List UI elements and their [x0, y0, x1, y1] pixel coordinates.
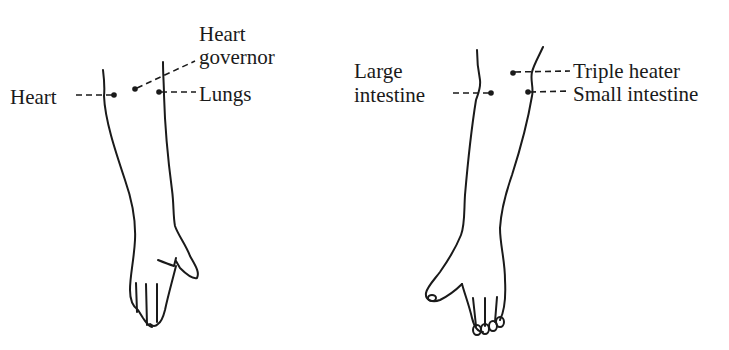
right-arm-points [453, 70, 570, 96]
lungs-point [156, 89, 162, 95]
label-heart: Heart [10, 86, 57, 108]
small-intestine-point [525, 89, 531, 95]
meridian-diagram [0, 0, 729, 350]
label-triple-heater: Triple heater [573, 60, 680, 82]
large-intestine-point [488, 90, 494, 96]
label-large-intestine-line2: intestine [354, 84, 425, 106]
left-hand-fingers [136, 283, 157, 325]
label-large-intestine-line1: Large [354, 60, 403, 82]
left-hand-thumb [158, 258, 176, 266]
right-arm-drawing [426, 47, 543, 335]
left-arm-outer-contour [103, 70, 152, 327]
label-lungs: Lungs [199, 83, 252, 105]
small-intestine-leader [530, 91, 570, 92]
right-arm-inner-contour [500, 47, 543, 320]
label-small-intestine: Small intestine [573, 83, 698, 105]
heart-governor-point [132, 86, 138, 92]
heart-point [111, 92, 117, 98]
label-heart-governor-line2: governor [199, 46, 275, 68]
left-hand-palm [150, 266, 176, 326]
left-arm-points [76, 61, 196, 98]
triple-heater-point [510, 70, 516, 76]
triple-heater-leader [515, 71, 570, 72]
left-arm-inner-contour [163, 62, 198, 278]
heart-governor-leader [137, 61, 195, 88]
right-hand-thumb [462, 284, 483, 332]
left-arm-drawing [103, 62, 198, 327]
right-arm-outer-contour [426, 50, 480, 301]
right-thumbnail [428, 295, 436, 301]
label-heart-governor-line1: Heart [199, 23, 246, 45]
